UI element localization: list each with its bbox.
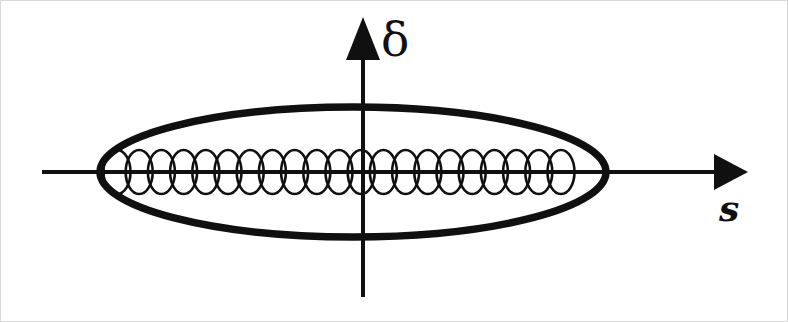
delta-axis-label: δ [381, 16, 409, 63]
s-axis-arrowhead [714, 154, 748, 190]
s-axis-label: s [719, 190, 739, 226]
figure-root: δ s [0, 0, 788, 322]
delta-axis-arrowhead [346, 17, 380, 60]
